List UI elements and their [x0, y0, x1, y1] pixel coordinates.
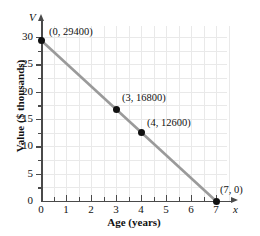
gridline-horizontal: [41, 105, 227, 106]
data-point: [138, 129, 145, 136]
x-axis-tick-minor: [79, 197, 80, 201]
gridline-horizontal: [41, 160, 227, 161]
gridline-vertical: [166, 26, 167, 201]
y-axis-tick-minor: [38, 160, 42, 161]
x-axis-tick-label: 2: [81, 203, 101, 215]
gridline-horizontal: [41, 51, 227, 52]
x-axis-tick-label: 6: [181, 203, 201, 215]
x-axis-tick: [41, 195, 42, 201]
x-axis-tick: [191, 195, 192, 201]
gridline-vertical: [54, 26, 55, 201]
gridline-vertical: [191, 26, 192, 201]
y-axis-tick: [36, 64, 42, 65]
y-axis-tick: [36, 146, 42, 147]
gridline-vertical: [91, 26, 92, 201]
gridline-horizontal: [41, 146, 227, 147]
x-axis-tick-minor: [129, 197, 130, 201]
x-axis-tick-label: 3: [106, 203, 126, 215]
gridline-vertical: [129, 26, 130, 201]
x-axis-title: Age (years): [41, 216, 227, 228]
x-axis-tick-label: 0: [31, 203, 51, 215]
y-axis-symbol: V: [29, 11, 36, 23]
x-axis-tick-minor: [54, 197, 55, 201]
x-axis-tick: [141, 195, 142, 201]
gridline-vertical: [216, 26, 217, 201]
x-axis-symbol: x: [233, 203, 238, 215]
gridline-horizontal: [41, 174, 227, 175]
line-chart-figure: 01234567051015202530 V x Age (years) Val…: [0, 0, 260, 236]
gridline-vertical: [154, 26, 155, 201]
y-axis-tick-minor: [38, 187, 42, 188]
plot-area: [41, 26, 227, 201]
y-axis-tick-minor: [38, 78, 42, 79]
x-axis-tick-label: 7: [206, 203, 226, 215]
y-axis-arrow-icon: [38, 14, 44, 21]
gridline-vertical: [104, 26, 105, 201]
x-axis-tick: [116, 195, 117, 201]
x-axis-tick: [66, 195, 67, 201]
x-axis-tick-minor: [104, 197, 105, 201]
x-axis-tick: [166, 195, 167, 201]
y-axis-tick: [36, 92, 42, 93]
y-axis-tick-minor: [38, 51, 42, 52]
gridline-vertical: [79, 26, 80, 201]
gridline-horizontal: [41, 119, 227, 120]
y-axis-title: Value ($ thousands): [14, 36, 26, 176]
gridline-vertical: [179, 26, 180, 201]
data-point-label: (7, 0): [220, 184, 243, 195]
x-axis-tick-label: 5: [156, 203, 176, 215]
x-axis-tick: [91, 195, 92, 201]
gridline-vertical: [204, 26, 205, 201]
gridline-vertical: [229, 26, 230, 201]
gridline-horizontal: [41, 78, 227, 79]
y-axis-tick: [36, 119, 42, 120]
x-axis-tick-minor: [154, 197, 155, 201]
x-axis-tick-label: 1: [56, 203, 76, 215]
data-point-label: (3, 16800): [122, 92, 166, 103]
gridline-vertical: [66, 26, 67, 201]
y-axis-tick-minor: [38, 133, 42, 134]
gridline-horizontal: [41, 64, 227, 65]
y-axis-tick-minor: [38, 105, 42, 106]
data-point-label: (4, 12600): [147, 117, 191, 128]
data-point: [38, 37, 45, 44]
data-point: [213, 198, 220, 205]
x-axis-tick-minor: [204, 197, 205, 201]
data-point-label: (0, 29400): [49, 26, 93, 37]
x-axis-tick-minor: [179, 197, 180, 201]
x-axis-tick-label: 4: [131, 203, 151, 215]
gridline-horizontal: [41, 187, 227, 188]
y-axis-tick: [36, 174, 42, 175]
gridline-vertical: [116, 26, 117, 201]
gridline-vertical: [141, 26, 142, 201]
gridline-horizontal: [41, 133, 227, 134]
y-axis-tick-label: 0: [11, 194, 33, 206]
data-point: [113, 106, 120, 113]
